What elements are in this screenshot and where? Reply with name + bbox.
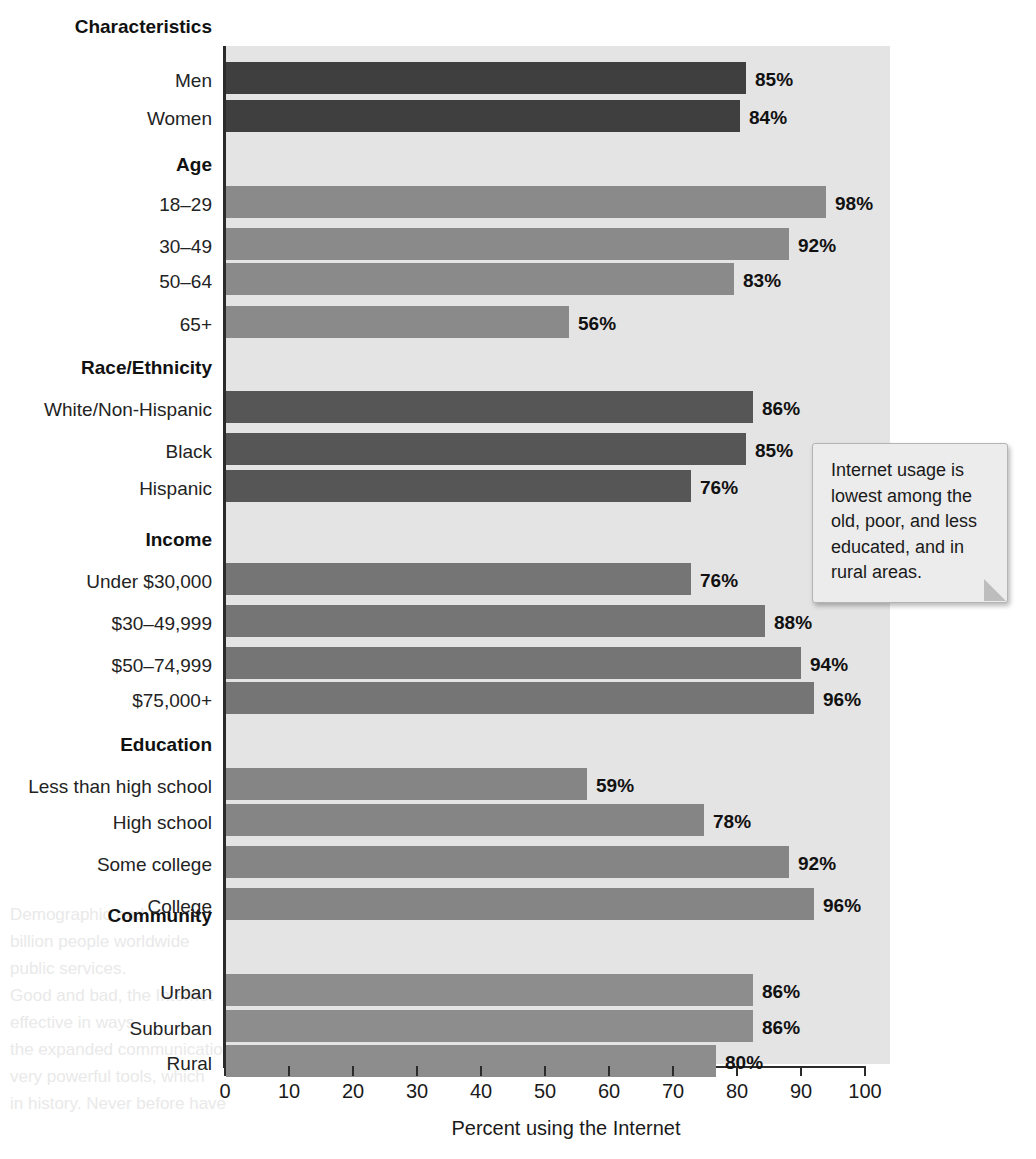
x-tick-label: 30 — [406, 1080, 428, 1103]
bar-label-women: Women — [0, 108, 212, 130]
page-bleed-line: in history. Never before have — [10, 1094, 226, 1114]
bar-label-college: College — [0, 896, 212, 918]
x-tick-mark — [288, 1066, 290, 1076]
bar-value-women: 84% — [749, 107, 787, 129]
x-tick-mark — [416, 1066, 418, 1076]
x-tick-label: 50 — [534, 1080, 556, 1103]
bar-urban — [226, 974, 753, 1006]
x-tick-mark — [736, 1066, 738, 1076]
bar-value-high-school: 78% — [713, 811, 751, 833]
bar-women — [226, 100, 740, 132]
x-tick-label: 60 — [598, 1080, 620, 1103]
callout-text: Internet usage is lowest among the old, … — [831, 460, 977, 582]
x-tick-label: 80 — [726, 1080, 748, 1103]
bar-label-under-30000: Under $30,000 — [0, 571, 212, 593]
bar-rural — [226, 1045, 716, 1077]
bar-label-30-49999: $30–49,999 — [0, 613, 212, 635]
bar-value-urban: 86% — [762, 981, 800, 1003]
bar-65plus — [226, 306, 569, 338]
bar-less-than-high-school — [226, 768, 587, 800]
bar-value-black: 85% — [755, 440, 793, 462]
group-heading-age: Age — [0, 154, 212, 176]
bar-label-hispanic: Hispanic — [0, 478, 212, 500]
bar-value-white-non-hispanic: 86% — [762, 398, 800, 420]
bar-value-75000plus: 96% — [823, 689, 861, 711]
bar-value-18-29: 98% — [835, 193, 873, 215]
bar-label-50-74999: $50–74,999 — [0, 655, 212, 677]
bar-white-non-hispanic — [226, 391, 753, 423]
x-tick-label: 70 — [662, 1080, 684, 1103]
x-tick-mark — [224, 1066, 226, 1076]
page-bleed-line: billion people worldwide — [10, 932, 190, 952]
bar-value-college: 96% — [823, 895, 861, 917]
bar-label-urban: Urban — [0, 982, 212, 1004]
bar-label-black: Black — [0, 441, 212, 463]
bar-label-men: Men — [0, 70, 212, 92]
bar-value-under-30000: 76% — [700, 570, 738, 592]
x-axis-title: Percent using the Internet — [0, 1117, 1036, 1140]
bar-men — [226, 62, 746, 94]
bar-label-white-non-hispanic: White/Non-Hispanic — [0, 399, 212, 421]
bar-value-some-college: 92% — [798, 853, 836, 875]
bar-30-49 — [226, 228, 789, 260]
bar-value-less-than-high-school: 59% — [596, 775, 634, 797]
bar-value-men: 85% — [755, 69, 793, 91]
x-tick-mark — [800, 1066, 802, 1076]
bar-hispanic — [226, 470, 691, 502]
x-tick-mark — [480, 1066, 482, 1076]
group-heading-race-ethnicity: Race/Ethnicity — [0, 357, 212, 379]
bar-value-65plus: 56% — [578, 313, 616, 335]
bar-label-30-49: 30–49 — [0, 236, 212, 258]
bar-value-rural: 80% — [725, 1052, 763, 1074]
bar-label-rural: Rural — [0, 1053, 212, 1075]
group-heading-characteristics: Characteristics — [0, 16, 212, 38]
bar-30-49999 — [226, 605, 765, 637]
bar-label-75000plus: $75,000+ — [0, 690, 212, 712]
bar-label-some-college: Some college — [0, 854, 212, 876]
x-tick-label: 0 — [219, 1080, 230, 1103]
x-tick-mark — [352, 1066, 354, 1076]
group-heading-education: Education — [0, 734, 212, 756]
x-tick-label: 40 — [470, 1080, 492, 1103]
x-tick-label: 20 — [342, 1080, 364, 1103]
bar-value-hispanic: 76% — [700, 477, 738, 499]
x-tick-label: 90 — [790, 1080, 812, 1103]
callout-fold-corner — [984, 579, 1006, 601]
x-tick-mark — [864, 1066, 866, 1076]
bar-some-college — [226, 846, 789, 878]
callout-box: Internet usage is lowest among the old, … — [812, 443, 1008, 603]
bar-18-29 — [226, 186, 826, 218]
bar-suburban — [226, 1010, 753, 1042]
bar-under-30000 — [226, 563, 691, 595]
x-tick-mark — [544, 1066, 546, 1076]
bar-value-50-74999: 94% — [810, 654, 848, 676]
bar-high-school — [226, 804, 704, 836]
bar-label-50-64: 50–64 — [0, 271, 212, 293]
bar-label-high-school: High school — [0, 812, 212, 834]
bar-label-18-29: 18–29 — [0, 194, 212, 216]
bar-75000plus — [226, 682, 814, 714]
x-tick-mark — [672, 1066, 674, 1076]
internet-usage-bar-chart: Demographic and billion people worldwide… — [0, 0, 1036, 1159]
bar-50-64 — [226, 263, 734, 295]
bar-label-65plus: 65+ — [0, 314, 212, 336]
group-heading-income: Income — [0, 529, 212, 551]
bar-college — [226, 888, 814, 920]
x-tick-label: 100 — [848, 1080, 881, 1103]
bar-50-74999 — [226, 647, 801, 679]
x-tick-label: 10 — [278, 1080, 300, 1103]
bar-black — [226, 433, 746, 465]
bar-value-30-49999: 88% — [774, 612, 812, 634]
page-bleed-line: public services. — [10, 959, 126, 979]
bar-value-50-64: 83% — [743, 270, 781, 292]
x-axis-title-text: Percent using the Internet — [451, 1117, 680, 1140]
x-tick-mark — [608, 1066, 610, 1076]
bar-label-suburban: Suburban — [0, 1018, 212, 1040]
bar-value-30-49: 92% — [798, 235, 836, 257]
bar-label-less-than-high-school: Less than high school — [0, 776, 212, 798]
bar-value-suburban: 86% — [762, 1017, 800, 1039]
